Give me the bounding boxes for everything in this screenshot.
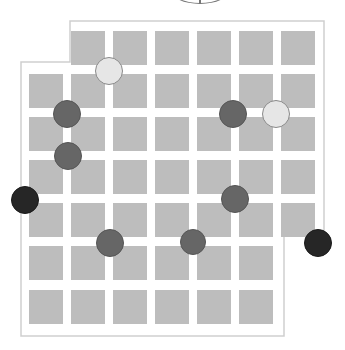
gray-piece[interactable]: [180, 229, 206, 255]
board-cell-r3-c2[interactable]: [113, 160, 147, 194]
board-cell-r1-c3[interactable]: [155, 74, 189, 108]
board-cell-r1-c6[interactable]: [281, 74, 315, 108]
black-piece[interactable]: [304, 229, 332, 257]
light-piece[interactable]: [262, 100, 290, 128]
gray-piece[interactable]: [53, 100, 81, 128]
gray-piece[interactable]: [54, 142, 82, 170]
board-cell-r6-c2[interactable]: [113, 290, 147, 324]
gray-piece[interactable]: [221, 185, 249, 213]
board-cell-r3-c3[interactable]: [155, 160, 189, 194]
board-cell-r0-c6[interactable]: [281, 31, 315, 65]
board-cell-r6-c5[interactable]: [239, 290, 273, 324]
game-stage: [0, 0, 345, 350]
board-cell-r2-c2[interactable]: [113, 117, 147, 151]
board-cell-r6-c4[interactable]: [197, 290, 231, 324]
board-cell-r6-c1[interactable]: [71, 290, 105, 324]
board-cell-r5-c0[interactable]: [29, 246, 63, 280]
black-piece[interactable]: [11, 186, 39, 214]
gray-piece[interactable]: [96, 229, 124, 257]
board-cell-r0-c4[interactable]: [197, 31, 231, 65]
board-cell-r0-c3[interactable]: [155, 31, 189, 65]
board-cell-r6-c0[interactable]: [29, 290, 63, 324]
board-cell-r2-c3[interactable]: [155, 117, 189, 151]
board-cell-r6-c3[interactable]: [155, 290, 189, 324]
gray-piece[interactable]: [219, 100, 247, 128]
light-piece[interactable]: [95, 57, 123, 85]
board-cell-r3-c6[interactable]: [281, 160, 315, 194]
board-cell-r5-c5[interactable]: [239, 246, 273, 280]
board-cell-r0-c5[interactable]: [239, 31, 273, 65]
